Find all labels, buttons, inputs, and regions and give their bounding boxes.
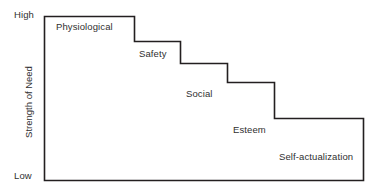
step-label-safety: Safety [139, 48, 167, 59]
staircase-chart: High Low Strength of Need Physiological … [0, 0, 378, 191]
step-label-social: Social [186, 88, 212, 99]
y-axis-title: Strength of Need [22, 32, 36, 172]
step-label-self-actualization: Self-actualization [279, 151, 353, 162]
step-label-esteem: Esteem [233, 124, 266, 135]
y-axis-tick-high: High [14, 9, 34, 20]
step-label-physiological: Physiological [56, 21, 113, 32]
